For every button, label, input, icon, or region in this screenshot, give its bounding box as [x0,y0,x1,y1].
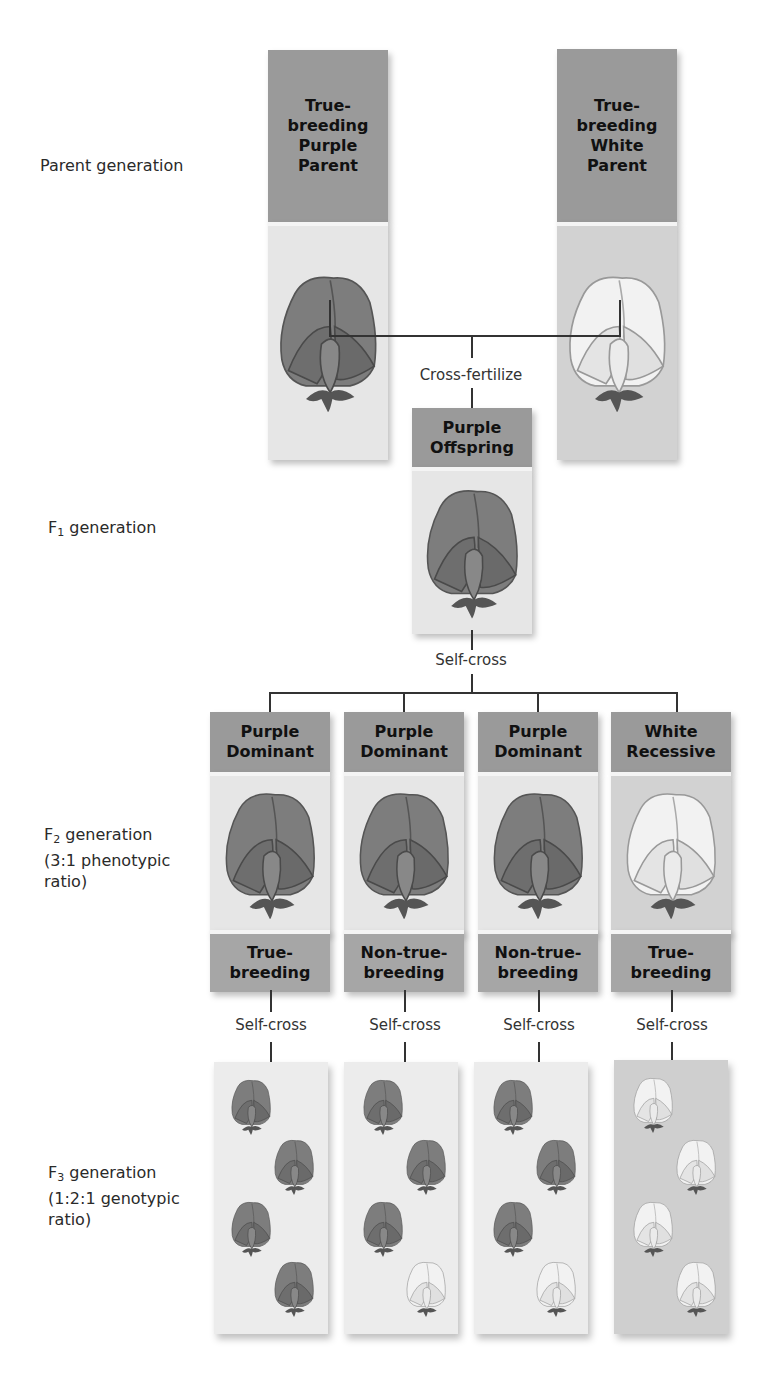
white-flower-icon [401,1260,451,1318]
purple-parent-title: True- breeding Purple Parent [288,96,369,176]
white-parent-image [557,222,677,460]
f2-footer-text-4: True- breeding [631,943,712,983]
connector-f3-down-2 [404,1042,406,1064]
connector-f2-2 [403,692,405,712]
purple-flower-icon [219,786,321,924]
white-parent-header: True- breeding White Parent [557,49,677,222]
self-cross-label-1: Self-cross [235,1016,307,1034]
purple-flower-icon [488,1200,538,1258]
self-cross-label-4: Self-cross [636,1016,708,1034]
purple-flower-icon [353,786,455,924]
f3-generation-label: F3 generation (1:2:1 genotypic ratio) [48,1162,180,1230]
f2-ratio-line-end: ratio) [44,871,170,892]
white-flower-icon [671,1138,721,1196]
white-flower-icon [531,1260,581,1318]
connector-self-cross-stem [471,674,473,693]
f1-label-text: generation [64,518,156,537]
purple-flower-icon [226,1200,276,1258]
f2-header-3: Purple Dominant [478,712,598,772]
f2-footer-text-3: Non-true- breeding [495,943,582,983]
f2-footer-2: Non-true- breeding [344,930,464,992]
connector-f2-4 [676,692,678,712]
f2-label-letter: F [44,825,53,844]
f2-footer-3: Non-true- breeding [478,930,598,992]
purple-parent-image [268,222,388,460]
connector-f2-1 [269,692,271,712]
f2-generation-label: F2 generation (3:1 phenotypic ratio) [44,824,170,892]
f2-header-1: Purple Dominant [210,712,330,772]
f2-footer-1: True- breeding [210,930,330,992]
f3-panel-1 [214,1062,328,1334]
purple-flower-icon [269,1138,319,1196]
connector-f3-down-3 [538,1042,540,1064]
f2-image-1 [210,772,330,934]
white-parent-title: True- breeding White Parent [577,96,658,176]
f2-ratio-line: (3:1 phenotypic [44,850,170,871]
connector-white-parent [619,300,621,336]
purple-parent-header: True- breeding Purple Parent [268,50,388,222]
purple-flower-icon [358,1200,408,1258]
purple-flower-icon [488,1078,538,1136]
connector-f3-up-4 [671,990,673,1012]
f2-title-1: Purple Dominant [226,722,314,762]
connector-f2-horizontal [269,692,677,694]
f1-label-letter: F [48,518,57,537]
f3-panel-4 [614,1060,728,1334]
purple-flower-icon [531,1138,581,1196]
purple-flower-icon [269,1260,319,1318]
white-flower-icon [628,1076,678,1134]
connector-f3-up-3 [538,990,540,1012]
self-cross-label-3: Self-cross [503,1016,575,1034]
f2-footer-text-2: Non-true- breeding [361,943,448,983]
purple-flower-icon [226,1078,276,1136]
f2-image-3 [478,772,598,934]
connector-f3-up-2 [404,990,406,1012]
f1-offspring-title: Purple Offspring [430,418,514,458]
f2-title-4: White Recessive [626,722,715,762]
f2-title-2: Purple Dominant [360,722,448,762]
connector-to-f1 [471,388,473,408]
white-flower-icon [562,268,672,418]
f3-label-text: generation [64,1163,156,1182]
self-cross-label-2: Self-cross [369,1016,441,1034]
purple-flower-icon [401,1138,451,1196]
f2-image-4 [611,772,731,934]
f3-ratio-line: (1:2:1 genotypic [48,1188,180,1209]
f2-footer-text-1: True- breeding [230,943,311,983]
connector-f1-down [471,630,473,650]
white-flower-icon [628,1200,678,1258]
f2-title-3: Purple Dominant [494,722,582,762]
white-flower-icon [620,786,722,924]
f2-image-2 [344,772,464,934]
f1-offspring-header: Purple Offspring [412,408,532,467]
parent-generation-label: Parent generation [40,155,183,176]
f3-panel-3 [474,1062,588,1334]
f3-label-letter: F [48,1163,57,1182]
cross-fertilize-label: Cross-fertilize [420,366,523,384]
white-flower-icon [671,1260,721,1318]
connector-cross-stem [471,336,473,358]
f1-generation-label: F1 generation [48,517,156,543]
f2-header-2: Purple Dominant [344,712,464,772]
purple-flower-icon [487,786,589,924]
connector-purple-parent [329,300,331,336]
purple-flower-icon [420,483,524,623]
f3-panel-2 [344,1062,458,1334]
connector-f2-3 [537,692,539,712]
f2-header-4: White Recessive [611,712,731,772]
f3-ratio-line-end: ratio) [48,1209,180,1230]
f2-label-text: generation [60,825,152,844]
connector-parents-horizontal [329,335,621,337]
f1-offspring-image [412,467,532,634]
purple-flower-icon [273,268,383,418]
self-cross-label-f1: Self-cross [435,651,507,669]
f2-footer-4: True- breeding [611,930,731,992]
purple-flower-icon [358,1078,408,1136]
connector-f3-up-1 [270,990,272,1012]
connector-f3-down-1 [270,1042,272,1064]
